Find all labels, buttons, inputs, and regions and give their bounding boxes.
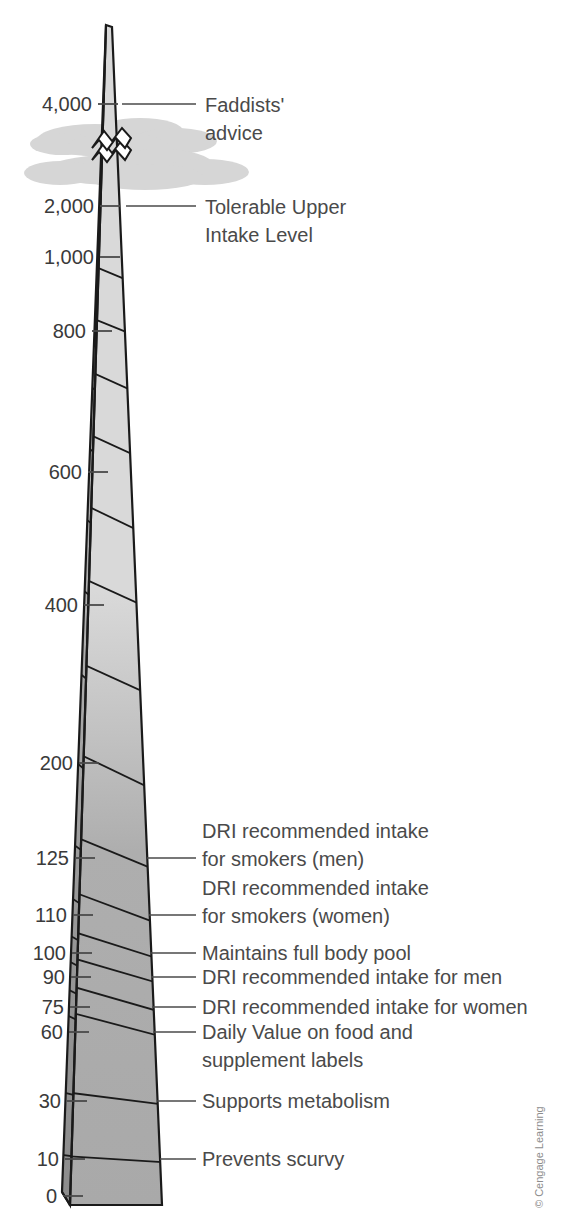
callout-line: Faddists' [205, 94, 284, 116]
callout-line: Tolerable Upper [205, 196, 347, 218]
tick-value-label: 10 [37, 1148, 59, 1170]
tick-value-label: 2,000 [44, 195, 94, 217]
credit-text: © Cengage Learning [533, 1106, 545, 1208]
tick-value-label: 800 [53, 320, 86, 342]
callout-line: DRI recommended intake for women [202, 996, 528, 1018]
callout-line: DRI recommended intake [202, 820, 429, 842]
tick-value-label: 1,000 [44, 246, 94, 268]
tick-value-label: 30 [39, 1090, 61, 1112]
callout-line: Daily Value on food and [202, 1021, 413, 1043]
tick-value-label: 4,000 [42, 93, 92, 115]
tick-value-label: 100 [33, 942, 66, 964]
callout-line: Intake Level [205, 224, 313, 246]
tick-value-label: 200 [40, 752, 73, 774]
callout-line: Prevents scurvy [202, 1148, 344, 1170]
tick-value-label: 0 [46, 1185, 57, 1207]
callout-label: Maintains full body pool [202, 942, 411, 964]
tick-value-label: 600 [49, 461, 82, 483]
tick-value-label: 400 [45, 594, 78, 616]
callout-line: for smokers (men) [202, 848, 364, 870]
callout-line: supplement labels [202, 1049, 363, 1071]
intake-tower-chart: 4,0002,0001,0008006004002001251101009075… [0, 0, 562, 1232]
callout-label: Supports metabolism [202, 1090, 390, 1112]
callout-line: DRI recommended intake for men [202, 966, 502, 988]
callout-line: Maintains full body pool [202, 942, 411, 964]
callout-line: advice [205, 122, 263, 144]
callout-label: DRI recommended intake for men [202, 966, 502, 988]
callout-dri-men: DRI recommended intake for men [151, 966, 502, 988]
tick-value-label: 110 [35, 904, 67, 926]
tick-value-label: 60 [41, 1021, 63, 1043]
callout-line: Supports metabolism [202, 1090, 390, 1112]
callout-label: Prevents scurvy [202, 1148, 344, 1170]
tick-value-label: 125 [36, 847, 69, 869]
callout-line: for smokers (women) [202, 905, 390, 927]
callout-line: DRI recommended intake [202, 877, 429, 899]
callout-label: DRI recommended intake for women [202, 996, 528, 1018]
credit-line: © Cengage Learning [533, 1106, 545, 1208]
callout-dri-women: DRI recommended intake for women [152, 996, 528, 1018]
tick-value-label: 75 [42, 996, 64, 1018]
tick-value-label: 90 [43, 966, 65, 988]
figure-canvas: 4,0002,0001,0008006004002001251101009075… [0, 0, 562, 1232]
